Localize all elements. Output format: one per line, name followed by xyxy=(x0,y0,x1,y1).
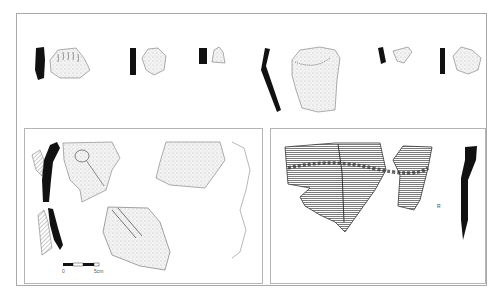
sherd-drawings xyxy=(0,0,500,300)
sherd-10 xyxy=(285,143,477,240)
sherd-7 xyxy=(32,142,120,202)
scale-start-label: 0 xyxy=(62,268,65,274)
sherd-9 xyxy=(38,207,170,270)
scale-end-label: 5cm xyxy=(94,268,103,274)
sherd-4 xyxy=(261,47,340,112)
sherd-3 xyxy=(199,47,225,64)
sherd-6 xyxy=(440,47,481,74)
sherd-1 xyxy=(35,47,90,80)
sherd-8 xyxy=(156,142,250,258)
sherd-2 xyxy=(130,48,166,75)
scale-bar xyxy=(63,263,99,266)
sherd-mark: R xyxy=(437,203,441,209)
sherd-5 xyxy=(378,47,412,64)
